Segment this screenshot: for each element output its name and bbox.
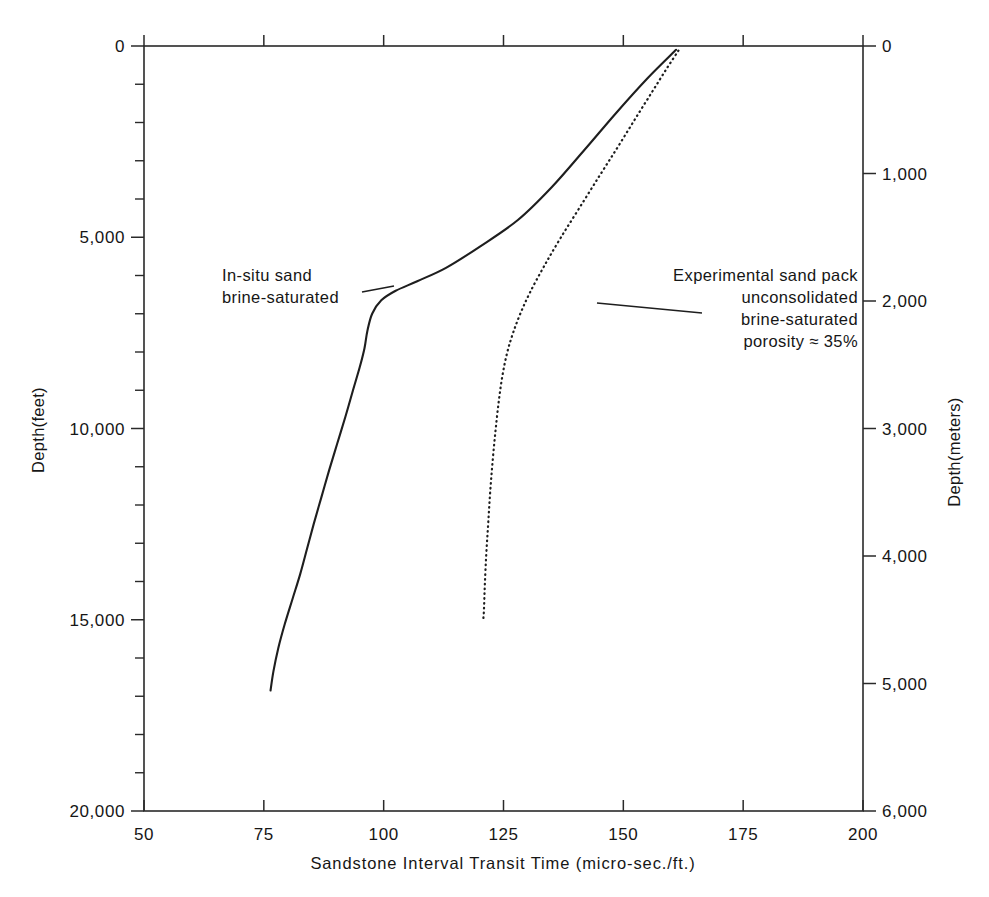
y-right-tick-label: 3,000 bbox=[882, 420, 928, 439]
y-left-tick-label: 0 bbox=[115, 37, 125, 56]
x-tick-label: 100 bbox=[369, 825, 399, 844]
series-line-experimental bbox=[483, 51, 679, 622]
y-left-tick-label: 10,000 bbox=[69, 420, 125, 439]
y-left-tick-label: 5,000 bbox=[79, 228, 125, 247]
annotation-left-line1: In-situ sand bbox=[222, 266, 312, 284]
x-tick-label: 50 bbox=[134, 825, 154, 844]
annotation-right-line3: brine-saturated bbox=[741, 310, 858, 328]
annotation-right-line4: porosity ≈ 35% bbox=[743, 332, 858, 350]
axis-tick-labels: 507510012515017520005,00010,00015,00020,… bbox=[69, 37, 927, 844]
x-tick-label: 150 bbox=[608, 825, 638, 844]
y-left-tick-label: 15,000 bbox=[69, 611, 125, 630]
chart-figure: 507510012515017520005,00010,00015,00020,… bbox=[0, 0, 989, 897]
y-right-tick-label: 6,000 bbox=[882, 802, 928, 821]
y-right-tick-label: 0 bbox=[882, 37, 892, 56]
series-line-insitu bbox=[271, 50, 677, 691]
chart-canvas: 507510012515017520005,00010,00015,00020,… bbox=[0, 0, 989, 897]
y-left-tick-label: 20,000 bbox=[69, 802, 125, 821]
x-tick-label: 175 bbox=[728, 825, 758, 844]
axis-ticks bbox=[131, 35, 876, 811]
annotation-right-line2: unconsolidated bbox=[741, 288, 858, 306]
y-right-tick-label: 2,000 bbox=[882, 292, 928, 311]
y-right-tick-label: 5,000 bbox=[882, 675, 928, 694]
annotation-right-leader-line bbox=[597, 303, 702, 313]
y-right-tick-label: 4,000 bbox=[882, 547, 928, 566]
axes-frame bbox=[144, 46, 863, 811]
x-tick-label: 75 bbox=[254, 825, 274, 844]
y-axis-right-title: Depth(meters) bbox=[945, 397, 963, 506]
data-series bbox=[271, 50, 679, 691]
x-tick-label: 200 bbox=[848, 825, 878, 844]
annotation-right-line1: Experimental sand pack bbox=[673, 266, 858, 284]
y-right-tick-label: 1,000 bbox=[882, 165, 928, 184]
annotation-left-line2: brine-saturated bbox=[222, 288, 339, 306]
chart-annotations: In-situ sandbrine-saturatedExperimental … bbox=[222, 266, 858, 350]
y-axis-left-title: Depth(feet) bbox=[29, 387, 47, 473]
annotation-left-leader-line bbox=[362, 286, 394, 292]
x-axis-title: Sandstone Interval Transit Time (micro-s… bbox=[310, 854, 695, 872]
x-tick-label: 125 bbox=[488, 825, 518, 844]
